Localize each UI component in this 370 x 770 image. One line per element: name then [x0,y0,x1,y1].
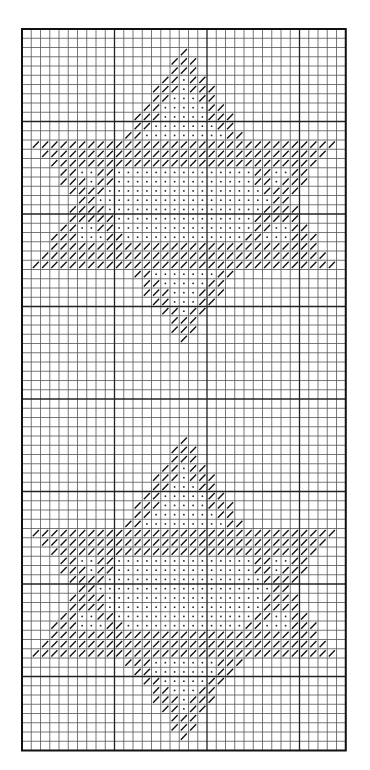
needlepoint-chart [0,0,370,770]
stitch-marks [33,49,335,740]
